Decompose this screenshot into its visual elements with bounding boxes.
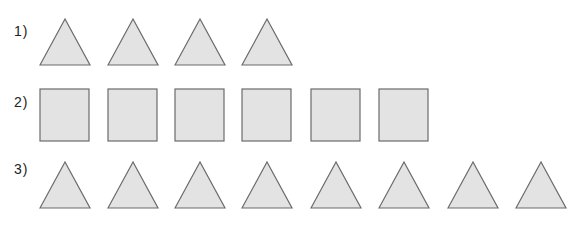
triangle-shape <box>379 162 429 208</box>
row-2-shapes <box>40 89 428 141</box>
shapes-canvas <box>0 0 580 244</box>
triangle-shape <box>175 19 225 65</box>
square-shape <box>242 89 291 141</box>
triangle-shape <box>242 162 292 208</box>
triangle-shape <box>40 19 90 65</box>
triangle-shape <box>311 162 361 208</box>
square-shape <box>379 89 428 141</box>
square-shape <box>175 89 224 141</box>
square-shape <box>40 89 89 141</box>
triangle-shape <box>516 162 566 208</box>
row-1-shapes <box>40 19 292 65</box>
triangle-shape <box>242 19 292 65</box>
triangle-shape <box>40 162 90 208</box>
triangle-shape <box>448 162 498 208</box>
square-shape <box>108 89 157 141</box>
triangle-shape <box>108 162 158 208</box>
triangle-shape <box>108 19 158 65</box>
triangle-shape <box>175 162 225 208</box>
row-3-shapes <box>40 162 566 208</box>
square-shape <box>311 89 360 141</box>
